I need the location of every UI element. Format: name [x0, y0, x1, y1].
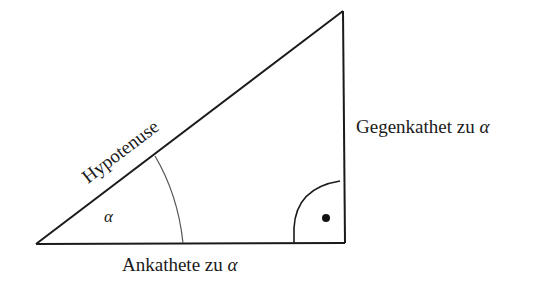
right-angle-arc [294, 181, 340, 243]
adjacent-side [36, 243, 345, 244]
right-triangle-diagram: α Hypotenuse Gegenkathet zu α Ankathete … [0, 0, 546, 282]
adjacent-label-text: Ankathete zu [122, 254, 228, 275]
hypotenuse-label: Hypotenuse [78, 116, 163, 188]
opposite-side [343, 11, 345, 243]
adjacent-label: Ankathete zu α [122, 254, 239, 275]
adjacent-alpha: α [228, 254, 239, 275]
opposite-label-text: Gegenkathet zu [356, 116, 479, 137]
alpha-label: α [104, 207, 114, 226]
opposite-label: Gegenkathet zu α [356, 116, 490, 137]
right-angle-dot [322, 214, 330, 222]
hypotenuse-side [36, 11, 343, 244]
opposite-alpha: α [479, 116, 490, 137]
alpha-angle-arc [155, 156, 183, 243]
